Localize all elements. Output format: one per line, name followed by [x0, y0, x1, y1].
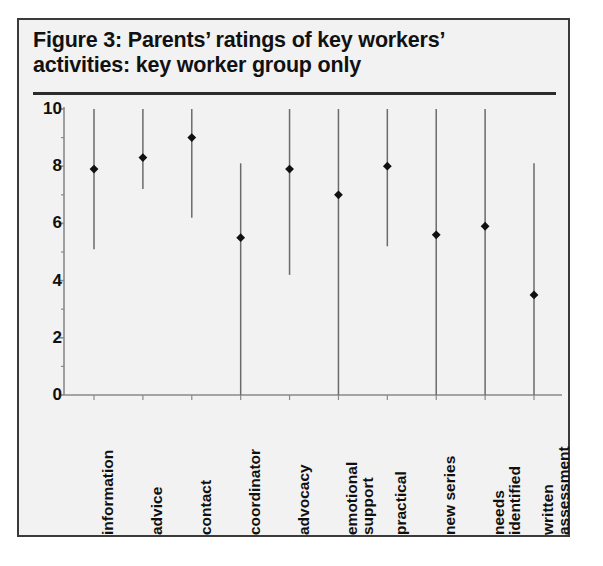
x-axis-category-label: coordinator	[247, 449, 263, 535]
x-axis-category-labels: informationadvicecontactcoordinatoradvoc…	[19, 20, 572, 539]
x-axis-category-label: needs identified	[491, 466, 524, 535]
x-axis-category-label: advocacy	[296, 464, 312, 535]
x-axis-category-label: new series	[442, 456, 458, 535]
x-axis-category-label: advice	[149, 487, 165, 535]
figure-root: Figure 3: Parents’ ratings of key worker…	[0, 0, 603, 566]
x-axis-category-label: information	[100, 450, 116, 535]
x-axis-category-label: practical	[393, 471, 409, 535]
x-axis-category-label: emotional support	[344, 462, 377, 535]
figure-box: Figure 3: Parents’ ratings of key worker…	[17, 18, 570, 537]
plot-area: 0246810 informationadvicecontactcoordina…	[19, 20, 572, 539]
x-axis-category-label: written assessment	[540, 446, 573, 535]
x-axis-category-label: contact	[198, 480, 214, 535]
